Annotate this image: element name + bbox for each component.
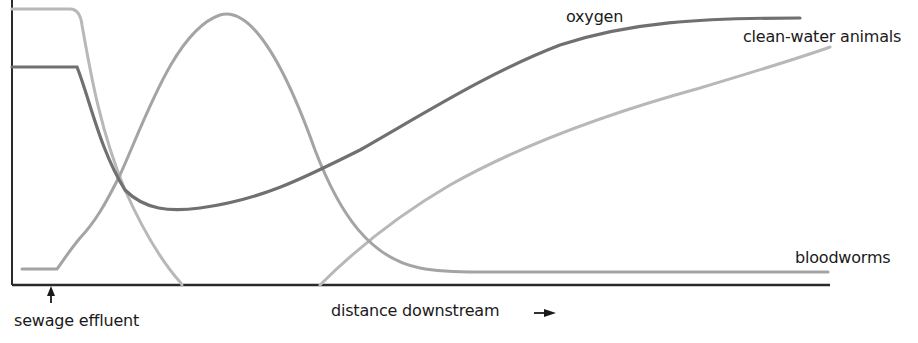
line-chart [0, 0, 918, 343]
label-clean-water-animals: clean-water animals [743, 27, 901, 46]
label-bloodworms: bloodworms [795, 248, 890, 267]
x-axis-label: distance downstream [331, 301, 499, 320]
series-bloodworms [22, 14, 828, 272]
arrow-up-icon [47, 286, 55, 296]
series-oxygen [12, 18, 800, 210]
arrow-right-icon [544, 309, 556, 317]
series-clean-water-animals [12, 9, 830, 285]
label-oxygen: oxygen [566, 7, 623, 26]
label-sewage-effluent: sewage effluent [14, 311, 139, 330]
